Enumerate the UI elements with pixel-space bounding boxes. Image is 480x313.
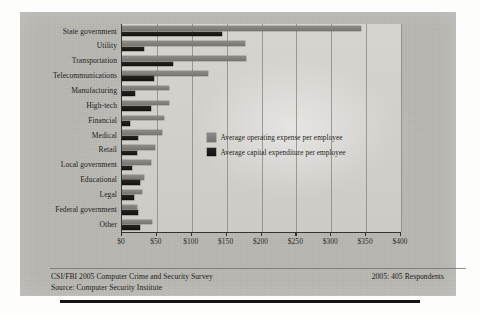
category-label: Financial [88, 117, 117, 125]
category-label: Manufacturing [71, 87, 117, 95]
chart-legend: Average operating expense per employee A… [207, 133, 346, 162]
bar-operating-expense [122, 130, 162, 135]
bar-operating-expense [122, 71, 208, 76]
category-label: Local government [61, 161, 117, 169]
legend-label-operating-expense: Average operating expense per employee [221, 133, 343, 142]
legend-item-operating-expense: Average operating expense per employee [207, 133, 346, 142]
x-axis-tick [400, 232, 401, 236]
gridline [366, 24, 367, 232]
bar-capital-expenditure [122, 106, 151, 111]
x-axis-tick-label: $150 [218, 237, 233, 246]
bar-operating-expense [122, 101, 169, 106]
bar-capital-expenditure [122, 91, 135, 96]
category-label: High-tech [86, 102, 117, 110]
bar-capital-expenditure [122, 76, 154, 81]
x-axis-tick [156, 232, 157, 236]
x-axis-tick [226, 232, 227, 236]
bar-operating-expense [122, 190, 142, 195]
x-axis-tick [330, 232, 331, 236]
x-axis-tick-label: $400 [392, 237, 407, 246]
category-label: Telecommunications [53, 72, 117, 80]
bar-operating-expense [122, 56, 246, 61]
footer-source-line: Source: Computer Security Institute [51, 283, 213, 294]
legend-item-capital-expenditure: Average capital expenditure per employee [207, 148, 346, 157]
bar-capital-expenditure [122, 32, 222, 37]
bar-operating-expense [122, 26, 361, 31]
bar-capital-expenditure [122, 136, 138, 141]
x-axis-tick-label: $100 [183, 237, 198, 246]
bar-operating-expense [122, 175, 144, 180]
bar-capital-expenditure [122, 180, 140, 185]
bar-operating-expense [122, 86, 169, 91]
bar-capital-expenditure [122, 195, 134, 200]
gridline [401, 24, 402, 232]
chart-page: State governmentUtilityTransportationTel… [0, 0, 480, 313]
bar-capital-expenditure [122, 151, 137, 156]
gridline [296, 24, 297, 232]
bar-capital-expenditure [122, 166, 132, 171]
category-label: Medical [92, 132, 117, 140]
category-label: Other [99, 221, 117, 229]
gridline [331, 24, 332, 232]
category-label: Educational [80, 176, 117, 184]
x-axis-tick-label: $0 [117, 237, 125, 246]
category-axis-labels: State governmentUtilityTransportationTel… [20, 24, 117, 244]
category-label: State government [63, 28, 117, 36]
category-label: Federal government [55, 206, 117, 214]
category-label: Utility [97, 42, 117, 50]
bar-operating-expense [122, 220, 152, 225]
scanned-figure-panel: State governmentUtilityTransportationTel… [20, 12, 456, 296]
legend-label-capital-expenditure: Average capital expenditure per employee [221, 148, 346, 157]
footer-source-text: CSI/FBI 2005 Computer Crime and Security… [51, 272, 213, 293]
category-label: Retail [99, 146, 117, 154]
x-axis-tick [295, 232, 296, 236]
x-axis-tick [121, 232, 122, 236]
x-axis-tick-label: $50 [150, 237, 161, 246]
footer-respondents: 2005: 405 Respondents [372, 272, 444, 281]
bar-operating-expense [122, 41, 245, 46]
legend-swatch-light [207, 133, 216, 142]
bar-operating-expense [122, 116, 164, 121]
x-axis-tick-label: $250 [288, 237, 303, 246]
bar-capital-expenditure [122, 47, 144, 52]
legend-swatch-dark [207, 148, 216, 157]
bar-operating-expense [122, 160, 151, 165]
footer-survey-title: CSI/FBI 2005 Computer Crime and Security… [51, 272, 213, 283]
bar-capital-expenditure [122, 225, 140, 230]
gridline [262, 24, 263, 232]
x-axis-tick [365, 232, 366, 236]
x-axis-tick [261, 232, 262, 236]
bar-capital-expenditure [122, 210, 138, 215]
plot-area [121, 24, 401, 232]
bar-capital-expenditure [122, 121, 130, 126]
category-label: Transportation [72, 57, 117, 65]
x-axis-tick-label: $300 [323, 237, 338, 246]
x-axis-tick [191, 232, 192, 236]
x-axis-tick-label: $350 [358, 237, 373, 246]
x-axis-tick-label: $200 [253, 237, 268, 246]
bar-capital-expenditure [122, 62, 173, 67]
page-bottom-rule [60, 300, 420, 303]
bar-operating-expense [122, 145, 155, 150]
category-label: Legal [99, 191, 117, 199]
bar-operating-expense [122, 205, 137, 210]
footer-divider [50, 268, 466, 269]
